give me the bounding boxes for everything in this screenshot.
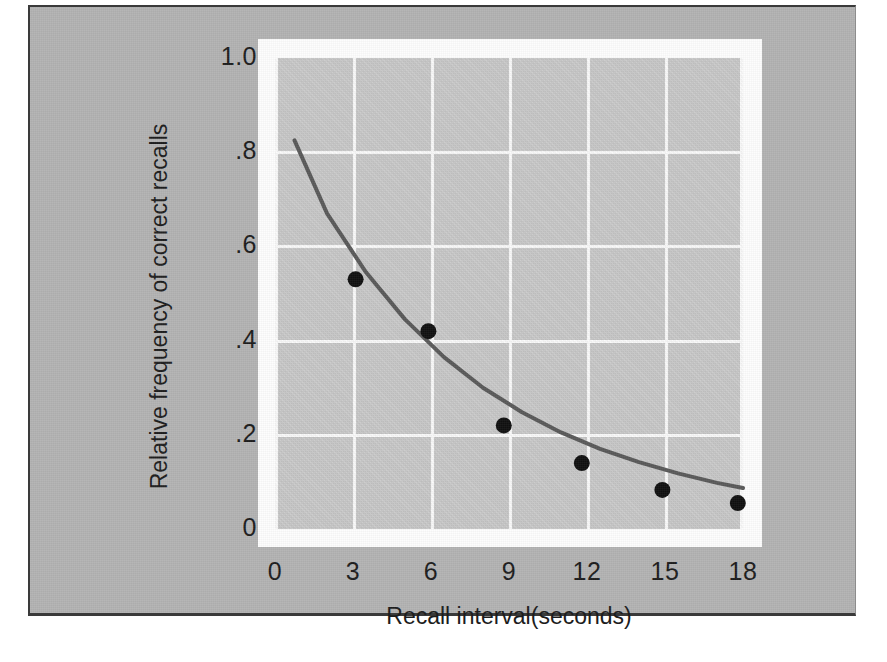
x-tick-label: 12 <box>557 557 617 586</box>
x-tick-label: 18 <box>713 557 773 586</box>
x-tick-label: 15 <box>635 557 695 586</box>
y-tick-label: 1.0 <box>187 42 257 71</box>
data-point <box>496 417 512 433</box>
x-tick-label: 9 <box>479 557 539 586</box>
y-tick-label: .8 <box>187 136 257 165</box>
data-point <box>654 482 670 498</box>
x-axis-title: Recall interval(seconds) <box>275 603 743 630</box>
y-tick-label: 0 <box>187 513 257 542</box>
fitted-curve <box>295 140 744 488</box>
x-tick-label: 3 <box>323 557 383 586</box>
y-tick-label: .2 <box>187 419 257 448</box>
x-tick-label: 0 <box>245 557 305 586</box>
data-point <box>574 455 590 471</box>
y-tick-label: .4 <box>187 325 257 354</box>
data-point <box>348 271 364 287</box>
data-point <box>730 495 746 511</box>
figure-plate: 0.2.4.6.81.0 0369121518 Recall interval(… <box>28 5 856 616</box>
chart-canvas <box>275 58 743 529</box>
figure-root: 0.2.4.6.81.0 0369121518 Recall interval(… <box>0 0 887 662</box>
data-point <box>420 323 436 339</box>
x-tick-label: 6 <box>401 557 461 586</box>
y-tick-label: .6 <box>187 230 257 259</box>
y-axis-title: Relative frequency of correct recalls <box>146 71 173 542</box>
